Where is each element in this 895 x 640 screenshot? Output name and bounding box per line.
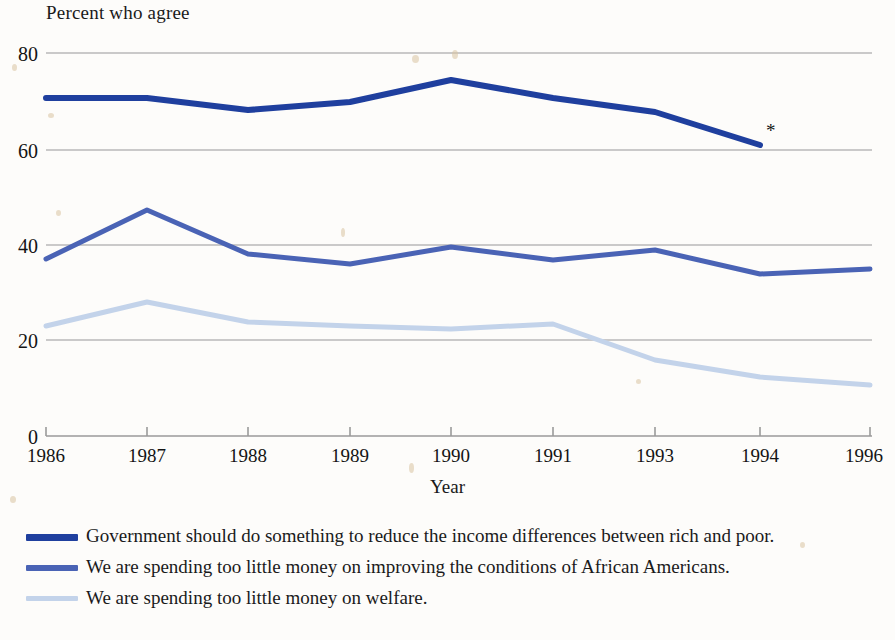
series-welfare <box>46 302 870 385</box>
y-tick-60: 60 <box>18 140 38 162</box>
y-tick-labels: 80 60 40 20 0 <box>18 43 38 448</box>
legend-swatch-african-americans <box>26 565 78 571</box>
x-tick-labels: 1986 1987 1988 1989 1990 1991 1993 1994 … <box>27 445 883 466</box>
y-tick-80: 80 <box>18 43 38 65</box>
x-tick-1991: 1991 <box>534 445 572 466</box>
legend-swatch-wrap <box>26 524 82 541</box>
x-tick-1989: 1989 <box>331 445 369 466</box>
x-tick-1987: 1987 <box>128 445 166 466</box>
chart-plot-area: 80 60 40 20 0 * 1986 1987 1988 1989 1990… <box>0 0 895 470</box>
series-african-americans <box>46 210 870 274</box>
x-tick-1986: 1986 <box>27 445 65 466</box>
legend-swatch-wrap <box>26 555 82 571</box>
x-tick-1996: 1996 <box>845 445 883 466</box>
x-axis-line <box>46 427 872 436</box>
legend-swatch-welfare <box>26 596 78 601</box>
asterisk-annotation: * <box>766 120 776 141</box>
legend-item-welfare: We are spending too little money on welf… <box>0 586 895 609</box>
chart-legend: Government should do something to reduce… <box>0 524 895 617</box>
legend-label-african-americans: We are spending too little money on impr… <box>82 555 730 578</box>
legend-label-welfare: We are spending too little money on welf… <box>82 586 427 609</box>
legend-label-income-differences: Government should do something to reduce… <box>82 524 774 547</box>
x-tick-1994: 1994 <box>741 445 780 466</box>
legend-swatch-income-differences <box>26 534 78 541</box>
y-tick-40: 40 <box>18 235 38 257</box>
series-income-differences <box>46 80 760 145</box>
x-tick-1988: 1988 <box>229 445 267 466</box>
legend-item-african-americans: We are spending too little money on impr… <box>0 555 895 578</box>
x-tick-1993: 1993 <box>636 445 674 466</box>
legend-swatch-wrap <box>26 586 82 601</box>
x-axis-title: Year <box>0 476 895 498</box>
x-tick-1990: 1990 <box>432 445 470 466</box>
legend-item-income-differences: Government should do something to reduce… <box>0 524 895 547</box>
chart-figure: Percent who agree 80 60 40 20 0 <box>0 0 895 640</box>
gridlines <box>46 53 872 340</box>
y-tick-20: 20 <box>18 330 38 352</box>
